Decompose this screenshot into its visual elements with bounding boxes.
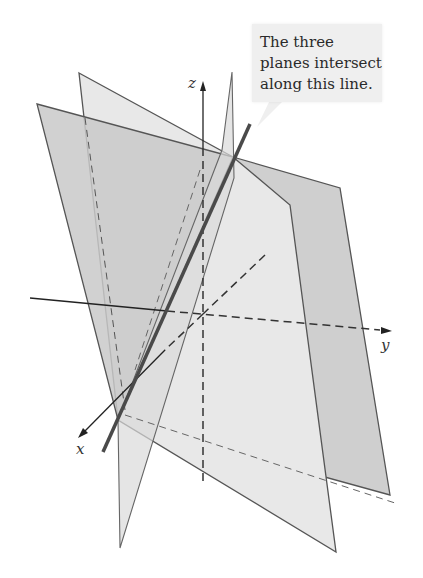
z-axis-arrow-icon (200, 81, 206, 91)
y-axis-label: y (381, 336, 389, 354)
callout-box: The three planes intersect along this li… (252, 24, 382, 102)
callout-pointer (257, 100, 284, 127)
x-axis-label: x (76, 440, 84, 458)
callout-text: The three planes intersect along this li… (260, 32, 382, 95)
z-axis-label: z (188, 74, 196, 92)
y-axis-arrow-icon (381, 327, 392, 334)
